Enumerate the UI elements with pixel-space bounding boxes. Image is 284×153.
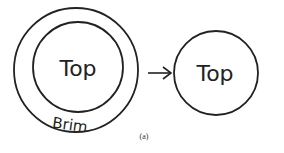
right-arrow-icon bbox=[148, 67, 171, 79]
brim-label: Brim bbox=[51, 114, 88, 137]
left-top-label: Top bbox=[58, 56, 96, 81]
right-hat-figure: Top bbox=[174, 31, 258, 115]
left-hat-figure: Top Brim bbox=[14, 8, 138, 136]
right-top-label: Top bbox=[195, 61, 233, 86]
figure-caption: (a) bbox=[140, 132, 149, 141]
hat-diagram: Top Brim Top (a) bbox=[0, 0, 284, 153]
